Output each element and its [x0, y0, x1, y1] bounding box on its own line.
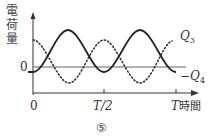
x-axis-end-label: T時間 [171, 100, 201, 112]
q4-label: Q [190, 69, 200, 83]
y-axis-arrow-icon [31, 12, 36, 19]
q4-subscript: 4 [200, 76, 205, 85]
series-minus-q4-solid [28, 30, 176, 72]
x-axis-arrow-icon [191, 90, 199, 96]
minus-sign: − [180, 69, 190, 83]
q3-subscript: 3 [190, 36, 195, 45]
x-tick-0: 0 [30, 100, 38, 112]
legend-q3: Q3 [180, 30, 195, 45]
y-label-char: 電 [6, 4, 20, 18]
y-label-char: 荷 [6, 18, 20, 32]
panel-number: ⑤ [96, 122, 107, 134]
q3-label: Q [180, 29, 190, 43]
x-tick-half: T/2 [93, 100, 113, 112]
y-label-char: 量 [6, 32, 20, 46]
y-axis-label: 電 荷 量 [6, 4, 20, 46]
legend-minus-q4: −Q4 [180, 70, 205, 85]
y-tick-zero: 0 [20, 61, 28, 73]
x-axis-label: 時間 [179, 100, 201, 113]
x-tick-T: T [171, 99, 179, 113]
